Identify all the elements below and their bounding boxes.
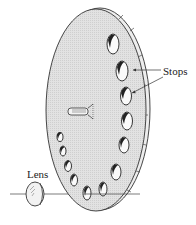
stop-2: [116, 61, 128, 81]
stop-4: [122, 112, 133, 130]
diagram-canvas: [0, 0, 196, 225]
stop-1: [107, 34, 119, 54]
stop-8: [83, 186, 91, 200]
stop-11: [60, 146, 66, 156]
stop-10: [65, 161, 72, 172]
stop-12: [57, 132, 63, 141]
lens-label: Lens: [27, 169, 48, 180]
stop-5: [119, 137, 129, 153]
stops-label: Stops: [163, 66, 187, 77]
lens: [26, 182, 44, 206]
stop-6: [111, 164, 121, 180]
stop-3: [121, 87, 132, 105]
stop-9: [71, 174, 78, 186]
aperture-disc-diagram: Stops Lens: [0, 0, 196, 225]
disc-face: [46, 9, 146, 211]
